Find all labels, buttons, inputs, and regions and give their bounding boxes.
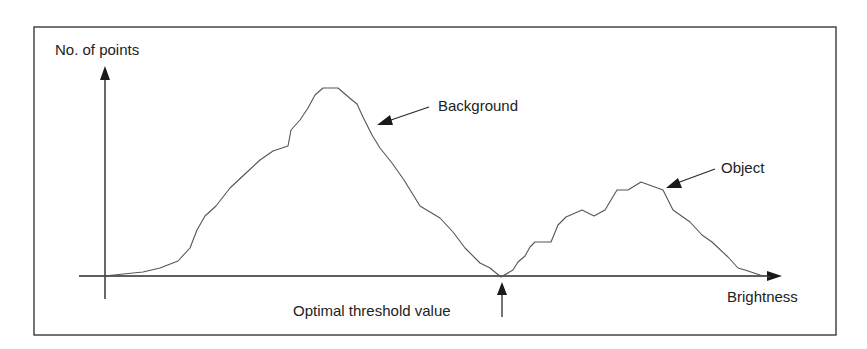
x-axis — [79, 271, 782, 281]
x-axis-label: Brightness — [727, 288, 798, 305]
histogram-diagram: No. of points Brightness Background Obje… — [0, 0, 867, 349]
background-pointer — [377, 107, 429, 125]
y-axis-arrow-icon — [100, 66, 110, 80]
y-axis-label: No. of points — [55, 41, 139, 58]
object-pointer — [666, 169, 715, 188]
diagram-frame — [34, 27, 836, 335]
background-arrow-icon — [377, 115, 393, 125]
background-label: Background — [438, 97, 518, 114]
y-axis — [100, 66, 110, 299]
object-label: Object — [721, 159, 765, 176]
threshold-pointer — [497, 282, 507, 317]
histogram-curve — [104, 88, 770, 277]
object-arrow-icon — [666, 178, 682, 188]
threshold-arrow-icon — [497, 282, 507, 295]
threshold-label: Optimal threshold value — [293, 302, 451, 319]
x-axis-arrow-icon — [767, 271, 782, 281]
